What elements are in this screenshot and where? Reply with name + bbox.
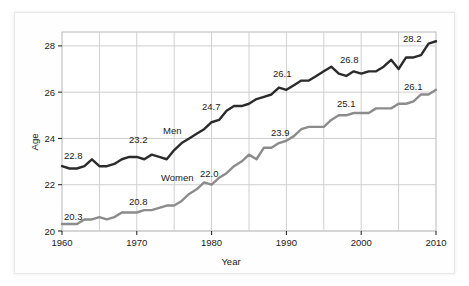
x-tick-label: 2000 xyxy=(351,237,372,248)
y-axis-title: Age xyxy=(29,134,40,151)
x-tick-label: 1980 xyxy=(201,237,222,248)
annotation-women-1990: 23.9 xyxy=(271,127,290,138)
x-tick-label: 1970 xyxy=(126,237,147,248)
y-tick-label: 26 xyxy=(44,87,55,98)
annotation-men-1970: 23.2 xyxy=(129,134,148,145)
chart-figure: 2022242628 196019701980199020002010 Year… xyxy=(0,0,469,286)
y-tick-label: 24 xyxy=(44,133,55,144)
y-tick-label: 22 xyxy=(44,179,55,190)
annotation-women-1970: 20.8 xyxy=(129,196,148,207)
chart-plot-area: 2022242628 196019701980199020002010 Year… xyxy=(0,0,469,286)
y-tick-label: 20 xyxy=(44,226,55,237)
annotation-men-1990: 26.1 xyxy=(273,68,292,79)
annotation-women-2000: 25.1 xyxy=(337,98,356,109)
annotation-women-2010: 26.1 xyxy=(404,81,423,92)
annotation-men-2000: 26.8 xyxy=(340,54,359,65)
x-axis-title: Year xyxy=(221,256,240,267)
annotation-men-2010: 28.2 xyxy=(403,33,422,44)
y-tick-label: 28 xyxy=(44,40,55,51)
annotation-women-1960: 20.3 xyxy=(64,211,83,222)
annotation-women-1980: 22.0 xyxy=(200,168,219,179)
x-axis-ticks: 196019701980199020002010 xyxy=(51,231,446,248)
annotation-men-1980: 24.7 xyxy=(202,101,221,112)
x-tick-label: 1990 xyxy=(276,237,297,248)
series-label-women: Women xyxy=(161,172,194,183)
series-label-men: Men xyxy=(163,125,181,136)
annotation-men-1960: 22.8 xyxy=(64,150,83,161)
y-axis-ticks: 2022242628 xyxy=(44,40,62,236)
line-chart-svg: 2022242628 196019701980199020002010 Year… xyxy=(0,0,469,286)
x-tick-label: 2010 xyxy=(425,237,446,248)
x-tick-label: 1960 xyxy=(51,237,72,248)
